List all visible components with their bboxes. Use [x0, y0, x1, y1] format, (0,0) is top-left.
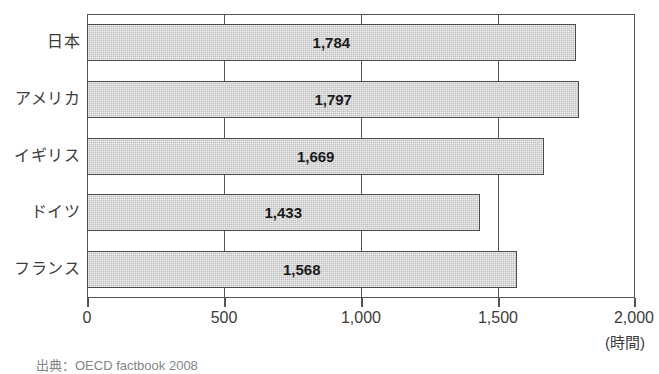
tick-label-2000: 2,000 — [594, 309, 659, 327]
bars-layer: 1,784 1,797 1,669 1,433 1,568 — [87, 14, 635, 298]
tick-mark-500 — [224, 298, 226, 307]
tick-label-1500: 1,500 — [458, 309, 538, 327]
tick-label-0: 0 — [47, 309, 127, 327]
tick-mark-2000 — [634, 298, 636, 307]
tick-mark-1500 — [498, 298, 500, 307]
bar-value-japan: 1,784 — [87, 24, 576, 61]
tick-mark-0 — [87, 298, 89, 307]
tick-label-1000: 1,000 — [321, 309, 401, 327]
category-label-2: イギリス — [0, 128, 80, 185]
bar-value-uk: 1,669 — [87, 138, 544, 175]
tick-mark-1000 — [361, 298, 363, 307]
source-note: 出典：OECD factbook 2008 — [36, 355, 198, 374]
tick-label-500: 500 — [184, 309, 264, 327]
category-label-0: 日本 — [0, 14, 80, 71]
bar-value-usa: 1,797 — [87, 81, 579, 118]
category-label-4: フランス — [0, 241, 80, 298]
bar-value-germany: 1,433 — [87, 194, 480, 231]
axis-unit-label: (時間) — [605, 331, 645, 352]
bar-value-france: 1,568 — [87, 251, 517, 288]
category-axis-labels: 日本 アメリカ イギリス ドイツ フランス — [0, 14, 80, 298]
category-label-3: ドイツ — [0, 184, 80, 241]
category-label-1: アメリカ — [0, 71, 80, 128]
